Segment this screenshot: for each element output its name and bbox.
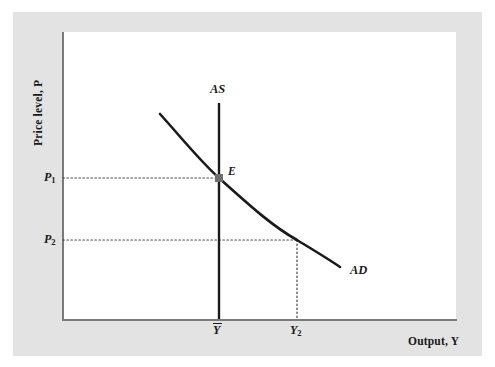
ad-curve (160, 114, 340, 267)
plot-graphics (0, 0, 495, 367)
ad-curve-label: AD (350, 263, 367, 278)
equilibrium-marker (215, 174, 223, 182)
y-axis-title: Price level, P (14, 0, 26, 28)
as-curve-label: AS (210, 82, 225, 97)
p2-tick-sub: 2 (51, 237, 55, 247)
figure-container: Price level, P Output, Y AS AD E P1 P2 Y… (0, 0, 495, 367)
x-axis-title: Output, Y (408, 335, 459, 347)
p2-tick-label: P2 (44, 232, 56, 247)
y-axis-title-text: Price level, P (32, 80, 44, 146)
p1-tick-label: P1 (44, 170, 56, 185)
y2-tick-label: Y2 (290, 323, 302, 338)
ybar-overline (213, 323, 222, 324)
ybar-tick-label: Y (213, 323, 220, 338)
y2-tick-sub: 2 (297, 328, 301, 338)
p1-tick-sub: 1 (51, 175, 55, 185)
equilibrium-label: E (228, 165, 236, 177)
